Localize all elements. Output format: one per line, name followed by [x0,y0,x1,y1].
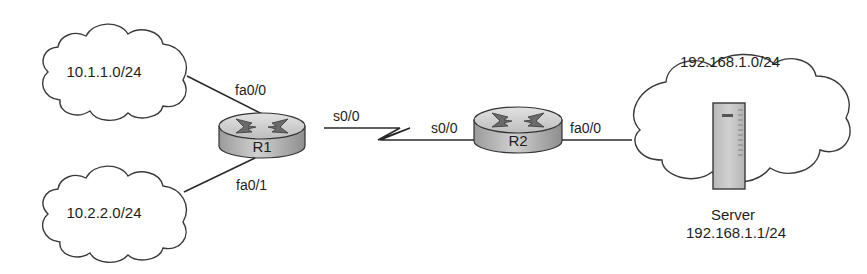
server-address: 192.168.1.1/24 [686,225,786,241]
cloud-label-net3: 192.168.1.0/24 [680,54,780,70]
interface-label-r2-fa0-0: fa0/0 [570,120,601,136]
server-label: Server [711,207,755,223]
router-label-r2: R2 [508,133,527,149]
router-label-r1: R1 [252,139,271,155]
server-icon[interactable] [713,103,745,189]
interface-label-r1-fa0-0: fa0/0 [235,82,266,98]
cloud-label-net2: 10.2.2.0/24 [66,205,141,221]
interface-label-r2-s0-0: s0/0 [431,120,457,136]
interface-label-r1-s0-0: s0/0 [333,108,359,124]
interface-label-r1-fa0-1: fa0/1 [236,177,267,193]
cloud-label-net1: 10.1.1.0/24 [66,64,141,80]
